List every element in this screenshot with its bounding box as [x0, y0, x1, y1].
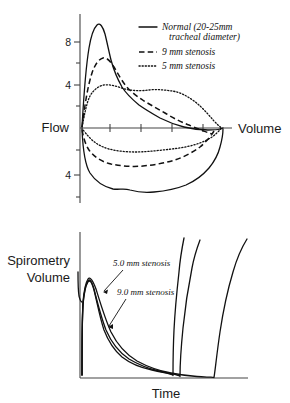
- volume-axis-label: Volume: [238, 121, 281, 136]
- legend-label-5mm: 5 mm stenosis: [162, 61, 216, 71]
- y-tick-label-4-upper: 4: [65, 79, 71, 91]
- spirometry-axis-label-line2: Volume: [27, 270, 70, 285]
- legend-label-9mm: 9 mm stenosis: [162, 47, 216, 57]
- flow-volume-chart: 8 4 4 Flow Volume Normal (20-25mm trache…: [0, 0, 290, 210]
- annotation-9mm-leader: [109, 299, 126, 326]
- y-tick-label-4-lower: 4: [65, 169, 71, 181]
- annotation-9mm-label: 9.0 mm stenosis: [117, 287, 175, 297]
- annotation-5mm-label: 5.0 mm stenosis: [113, 258, 171, 268]
- flow-volume-legend: Normal (20-25mm tracheal diameter) 9 mm …: [139, 22, 240, 71]
- curve-5mm-stenosis: [82, 85, 221, 152]
- spirometry-panel: Spirometry Volume Time 5.0 mm stenosis 9…: [0, 210, 290, 403]
- flow-volume-panel: 8 4 4 Flow Volume Normal (20-25mm trache…: [0, 0, 290, 210]
- flow-axis-label: Flow: [42, 120, 70, 135]
- annotation-5mm-arrowhead: [103, 290, 108, 295]
- curve-9mm-stenosis: [82, 58, 214, 167]
- legend-label-normal-line2: tracheal diameter): [169, 32, 240, 43]
- spirometry-axis-label-line1: Spirometry: [7, 253, 70, 268]
- spirometry-chart-content: Spirometry Volume Time 5.0 mm stenosis 9…: [0, 210, 290, 403]
- time-axis-label: Time: [152, 386, 180, 401]
- y-tick-label-8: 8: [65, 36, 71, 48]
